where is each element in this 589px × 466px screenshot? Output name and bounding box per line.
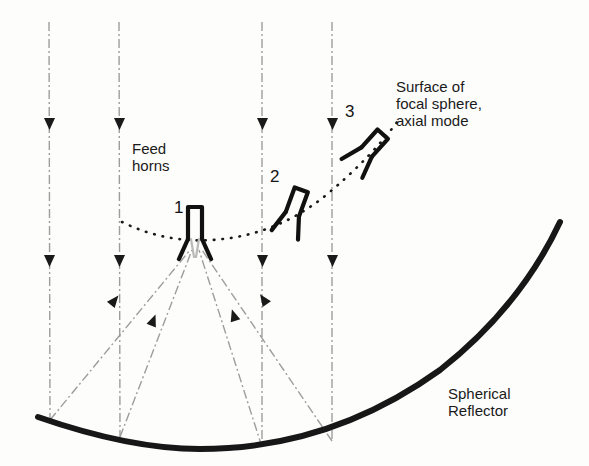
horn-1-inner-taper (191, 239, 199, 257)
feed-horns-label: Feed horns (132, 140, 170, 174)
incoming-ray-1 (49, 22, 50, 420)
horn-2-flare-right (291, 217, 305, 240)
horn-1-flare-left (179, 239, 188, 259)
horn-3-flare-left (342, 143, 362, 164)
arrowhead-down-icon (257, 118, 268, 130)
arrowhead-down-icon (327, 118, 338, 130)
arrowhead-up-icon (256, 291, 271, 307)
focal-sphere-label: Surface of focal sphere, axial mode (396, 78, 482, 129)
arrowhead-up-icon (147, 313, 161, 328)
reflected-ray-1 (50, 250, 190, 420)
arrowhead-up-icon (227, 308, 240, 322)
horn-1-waveguide (188, 207, 202, 239)
feed-horn-2 (272, 185, 315, 240)
reflected-ray-2 (120, 250, 192, 437)
horn-3-number: 3 (345, 103, 354, 120)
horn-3-flare-right (357, 157, 377, 178)
reflected-ray-group (50, 250, 332, 447)
horn-2-waveguide (286, 187, 308, 216)
focal-sphere-arc (122, 118, 400, 240)
arrowhead-down-icon (114, 118, 125, 130)
figure-canvas: Feed horns Surface of focal sphere, axia… (0, 0, 589, 466)
arrowhead-down-icon (44, 255, 55, 267)
horn-2-flare-left (272, 209, 286, 232)
horn-1-number: 1 (174, 199, 183, 216)
reflected-ray-4 (202, 250, 332, 441)
incoming-ray-2 (119, 22, 120, 437)
horn-3-waveguide (361, 130, 387, 157)
horn-2-number: 2 (270, 168, 279, 185)
arrowhead-down-icon (257, 255, 268, 267)
feed-horn-1 (179, 207, 211, 259)
arrowhead-down-icon (44, 118, 55, 130)
arrowhead-down-icon (114, 255, 125, 267)
incoming-ray-group (49, 22, 332, 447)
feed-horn-3 (342, 125, 394, 178)
spherical-reflector-label: Spherical Reflector (448, 385, 511, 419)
reflected-ray-3 (199, 250, 262, 447)
arrowhead-down-icon (327, 255, 338, 267)
